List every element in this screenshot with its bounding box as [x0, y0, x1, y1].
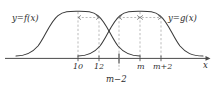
tick-label-m: m: [137, 63, 145, 71]
x-axis-label: x: [203, 61, 208, 70]
label-m-minus-2: m−2: [106, 75, 127, 84]
tick-label-m-plus-2: m+2: [153, 63, 172, 71]
curve-label-f: y=f(x): [12, 14, 39, 23]
span-marker-m-minus-2-to-m: [119, 16, 140, 20]
tick-label-12: 12: [94, 63, 104, 71]
span-marker-10-to-12: [78, 16, 99, 20]
curve-label-g: y=g(x): [168, 14, 197, 23]
math-figure: y=f(x) y=g(x) 10 12 m m+2 x m−2: [0, 0, 220, 89]
tick-label-10: 10: [73, 63, 83, 71]
